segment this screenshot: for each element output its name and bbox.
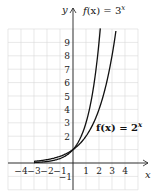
curve-label-2x-text: f(x) = 2 (96, 122, 138, 133)
y-tick-label: 8 (64, 51, 70, 61)
axes (8, 8, 148, 190)
y-tick-label: −1 (59, 172, 72, 182)
x-tick-label: −2 (40, 166, 53, 176)
y-tick-label: 2 (64, 132, 70, 142)
curve-label-3x: f(x) = 3x (82, 4, 125, 16)
x-tick-label: −3 (27, 166, 41, 176)
curve-label-2x: f(x) = 2x (96, 120, 143, 133)
x-tick-label: 3 (109, 166, 115, 176)
x-tick-label: −4 (14, 166, 28, 176)
y-tick-label: 4 (64, 105, 70, 115)
x-tick-label: 4 (122, 166, 128, 176)
y-axis-label: y (61, 4, 68, 15)
x-tick-label: 1 (83, 166, 89, 176)
curve-label-3x-text: (x) = 3 (87, 5, 122, 16)
x-tick-label: 2 (96, 166, 102, 176)
x-axis-label: x (145, 169, 151, 180)
y-tick-label: 6 (64, 78, 70, 88)
y-tick-label: 3 (64, 118, 70, 128)
y-tick-label: 5 (64, 92, 70, 102)
curves (34, 28, 116, 162)
y-tick-label: 9 (64, 38, 70, 48)
exponential-functions-chart: −4−3−2−11234−123456789 y x f(x) = 3x f(x… (0, 0, 160, 194)
y-tick-label: 7 (64, 65, 70, 75)
